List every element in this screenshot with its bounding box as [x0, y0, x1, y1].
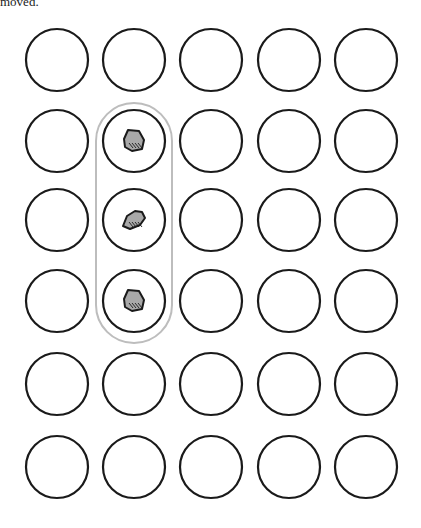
pit-r2-c5[interactable] — [335, 110, 397, 172]
pit-r4-c1[interactable] — [26, 270, 88, 332]
pit-r4-c3[interactable] — [180, 270, 242, 332]
pit-r3-c3[interactable] — [180, 189, 242, 251]
pit-r1-c5[interactable] — [335, 29, 397, 91]
pit-r2-c3[interactable] — [180, 110, 242, 172]
pit-r6-c2[interactable] — [103, 436, 165, 498]
pit-r2-c4[interactable] — [258, 110, 320, 172]
pit-r6-c5[interactable] — [335, 436, 397, 498]
pit-r5-c1[interactable] — [26, 353, 88, 415]
pit-r5-c3[interactable] — [180, 353, 242, 415]
pit-r1-c2[interactable] — [103, 29, 165, 91]
stone-icon — [123, 211, 145, 229]
pit-r6-c3[interactable] — [180, 436, 242, 498]
pit-r1-c4[interactable] — [258, 29, 320, 91]
stone-icon — [124, 290, 144, 311]
pit-r5-c5[interactable] — [335, 353, 397, 415]
pit-r6-c1[interactable] — [26, 436, 88, 498]
pit-r6-c4[interactable] — [258, 436, 320, 498]
stone-icon — [124, 130, 144, 151]
pit-r4-c4[interactable] — [258, 270, 320, 332]
pit-r1-c1[interactable] — [26, 29, 88, 91]
pit-r2-c1[interactable] — [26, 110, 88, 172]
pit-board — [0, 0, 421, 528]
pit-r4-c5[interactable] — [335, 270, 397, 332]
pit-r3-c4[interactable] — [258, 189, 320, 251]
pit-r5-c4[interactable] — [258, 353, 320, 415]
pit-r5-c2[interactable] — [103, 353, 165, 415]
pit-r3-c5[interactable] — [335, 189, 397, 251]
pit-r1-c3[interactable] — [180, 29, 242, 91]
pit-r3-c1[interactable] — [26, 189, 88, 251]
